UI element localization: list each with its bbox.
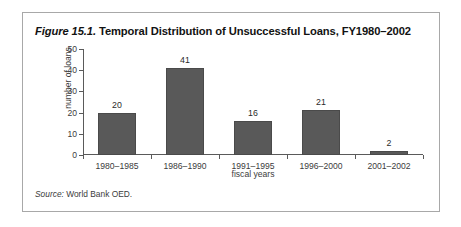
x-tick-mark	[423, 155, 424, 159]
bar-value-label: 2	[369, 139, 409, 148]
plot-area: 01020304050 204116212 1980–19851986–1990…	[83, 49, 423, 155]
y-axis-line	[83, 49, 84, 155]
y-tick-mark	[79, 113, 83, 114]
figure-title: Figure 15.1. Temporal Distribution of Un…	[35, 25, 431, 37]
y-tick-label: 0	[53, 151, 77, 160]
source-label: Source:	[35, 189, 64, 199]
x-tick-mark	[355, 155, 356, 159]
bar-value-label: 16	[233, 109, 273, 118]
x-axis-title: fiscal years	[83, 169, 423, 179]
y-tick-mark	[79, 70, 83, 71]
x-tick-mark	[83, 155, 84, 159]
y-tick-label: 10	[53, 130, 77, 139]
y-tick-mark	[79, 134, 83, 135]
bar	[370, 151, 408, 155]
y-tick-mark	[79, 49, 83, 50]
y-tick-label: 30	[53, 87, 77, 96]
bar	[98, 113, 136, 155]
y-tick-label: 50	[53, 45, 77, 54]
figure-container: Figure 15.1. Temporal Distribution of Un…	[22, 12, 440, 212]
bar-chart: number of loans 01020304050 204116212 19…	[35, 43, 431, 178]
y-tick-label: 40	[53, 66, 77, 75]
y-tick-mark	[79, 91, 83, 92]
bar	[302, 110, 340, 155]
bar-value-label: 20	[97, 101, 137, 110]
bar	[234, 121, 272, 155]
bar	[166, 68, 204, 155]
x-tick-mark	[287, 155, 288, 159]
source-note: Source: World Bank OED.	[35, 189, 132, 199]
y-tick-label: 20	[53, 108, 77, 117]
source-text: World Bank OED.	[64, 189, 132, 199]
bar-value-label: 41	[165, 56, 205, 65]
x-tick-mark	[151, 155, 152, 159]
x-tick-mark	[219, 155, 220, 159]
bar-value-label: 21	[301, 98, 341, 107]
figure-title-text: Temporal Distribution of Unsuccessful Lo…	[96, 25, 411, 37]
